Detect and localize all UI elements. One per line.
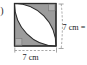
bottom-dimension-label: 7 cm [23,53,40,62]
right-angle-marker-top-right [48,4,55,11]
figure-container: ) 7 cm 7 cm = [0,0,87,65]
right-angle-marker-bottom-left [15,39,22,46]
geometry-figure: ) 7 cm 7 cm = [0,0,87,65]
right-dimension-label: 7 cm = [63,23,86,32]
item-marker: ) [0,5,3,17]
